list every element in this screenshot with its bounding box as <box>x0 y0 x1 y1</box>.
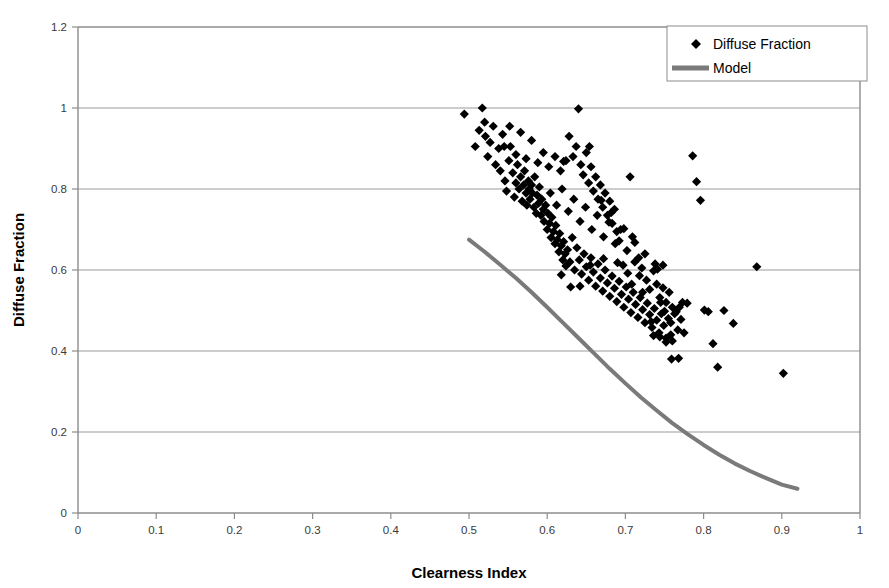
x-tick-label: 0.3 <box>305 524 321 536</box>
x-tick-label: 0.6 <box>539 524 555 536</box>
chart-background <box>0 0 889 588</box>
y-tick-label: 0.2 <box>51 426 67 438</box>
x-tick-label: 0.2 <box>226 524 242 536</box>
x-tick-label: 0.1 <box>148 524 164 536</box>
x-tick-label: 0.7 <box>617 524 633 536</box>
y-tick-label: 1.2 <box>51 21 67 33</box>
y-tick-label: 0.8 <box>51 183 67 195</box>
y-tick-label: 1 <box>61 102 67 114</box>
x-tick-label: 0.8 <box>696 524 712 536</box>
y-axis-title: Diffuse Fraction <box>10 213 27 327</box>
x-tick-label: 1 <box>857 524 863 536</box>
x-axis-title: Clearness Index <box>411 564 527 581</box>
legend-label-diffuse-fraction: Diffuse Fraction <box>713 36 811 52</box>
y-tick-label: 0.6 <box>51 264 67 276</box>
x-tick-label: 0.9 <box>774 524 790 536</box>
x-tick-label: 0 <box>75 524 81 536</box>
legend-box <box>667 26 867 81</box>
chart-legend: Diffuse Fraction Model <box>667 26 867 81</box>
y-tick-label: 0.4 <box>51 345 68 357</box>
x-tick-label: 0.4 <box>383 524 400 536</box>
y-tick-label: 0 <box>61 507 67 519</box>
legend-label-model: Model <box>713 60 751 76</box>
chart-figure: 00.10.20.30.40.50.60.70.80.91 00.20.40.6… <box>0 0 889 588</box>
scatter-plot: 00.10.20.30.40.50.60.70.80.91 00.20.40.6… <box>0 0 889 588</box>
x-tick-label: 0.5 <box>461 524 477 536</box>
